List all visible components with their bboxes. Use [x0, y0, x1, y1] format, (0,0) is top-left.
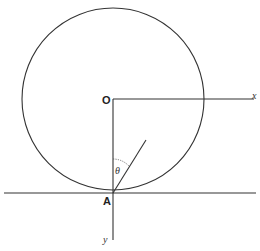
label-x: x	[251, 90, 257, 101]
label-o: O	[102, 94, 111, 106]
label-theta: θ	[115, 165, 120, 176]
label-a: A	[103, 195, 111, 207]
label-y: y	[102, 234, 108, 245]
circle-diagram: O A x y θ	[0, 0, 260, 251]
